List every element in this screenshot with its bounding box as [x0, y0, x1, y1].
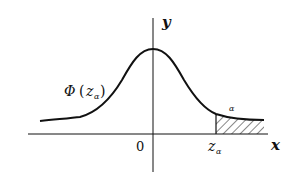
critical-value-subscript: α — [216, 147, 222, 156]
cdf-close-paren: ) — [100, 83, 105, 99]
cdf-argument: z — [85, 83, 94, 99]
tail-area-hatch — [216, 110, 266, 134]
cdf-open-paren: ( — [79, 83, 84, 99]
x-axis-label: x — [270, 136, 281, 154]
cdf-label: Φ ( z α ) — [64, 83, 105, 101]
y-axis-label: y — [161, 13, 172, 31]
critical-value-symbol: z — [207, 138, 216, 154]
normal-distribution-diagram: y x 0 Φ ( z α ) z α α — [0, 0, 296, 174]
critical-value-label: z α — [207, 138, 222, 156]
origin-label: 0 — [136, 139, 144, 154]
tail-area-label: α — [229, 104, 235, 113]
cdf-symbol: Φ — [64, 83, 75, 99]
